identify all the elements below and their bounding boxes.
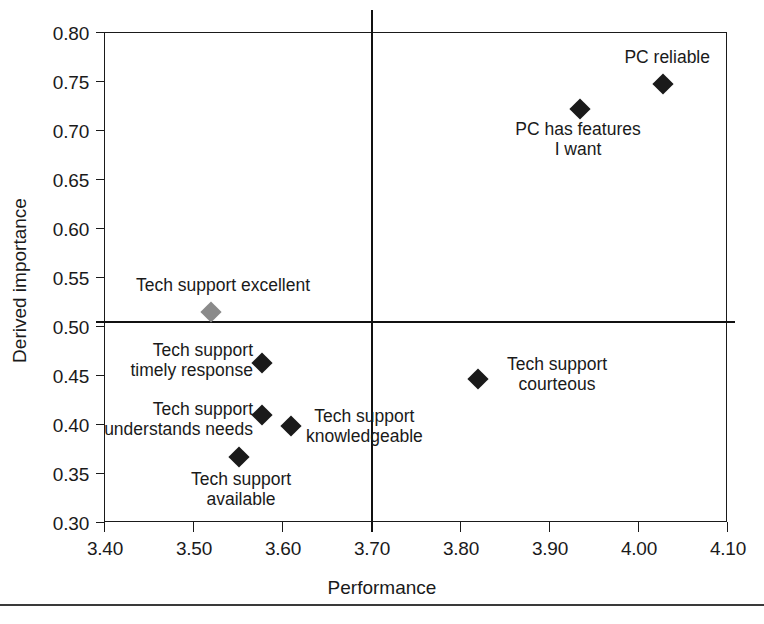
y-tick-label: 0.30 — [53, 514, 89, 533]
y-tick-0.35: 0.35 — [96, 473, 105, 474]
x-tick-label: 3.50 — [176, 539, 212, 558]
point-label-line: available — [206, 489, 275, 509]
point-label-line: PC has features — [515, 119, 640, 139]
x-tick-3.50: 3.50 — [193, 522, 194, 532]
y-tick-0.80: 0.80 — [96, 32, 105, 33]
y-tick-0.55: 0.55 — [96, 277, 105, 278]
y-tick-label: 0.70 — [53, 122, 89, 141]
x-tick-label: 4.10 — [710, 539, 746, 558]
point-label-line: understands needs — [104, 419, 253, 439]
y-tick-label: 0.75 — [53, 73, 89, 92]
point-label-tech-support-excellent: Tech support excellent — [136, 276, 310, 296]
point-label-line: Tech support — [153, 399, 253, 419]
y-tick-label: 0.50 — [53, 318, 89, 337]
y-tick-label: 0.60 — [53, 220, 89, 239]
x-tick-label: 3.60 — [265, 539, 301, 558]
x-tick-3.60: 3.60 — [282, 522, 283, 532]
x-tick-4.00: 4.00 — [638, 522, 639, 532]
point-label-tech-support-understands-needs: Tech supportunderstands needs — [104, 400, 253, 439]
reference-line-vertical — [371, 10, 373, 532]
y-tick-label: 0.65 — [53, 171, 89, 190]
scatter-chart: 0.30 0.35 0.40 0.45 0.50 0.55 0.60 0.65 … — [0, 0, 764, 624]
point-label-line: knowledgeable — [306, 426, 423, 446]
x-tick-3.40: 3.40 — [104, 522, 105, 532]
y-tick-0.60: 0.60 — [96, 228, 105, 229]
point-label-line: Tech support — [153, 340, 253, 360]
x-tick-4.10: 4.10 — [727, 522, 728, 532]
y-tick-label: 0.45 — [53, 367, 89, 386]
x-tick-3.90: 3.90 — [549, 522, 550, 532]
x-tick-label: 3.70 — [354, 539, 390, 558]
x-tick-label: 3.80 — [443, 539, 479, 558]
point-label-line: Tech support — [507, 354, 607, 374]
point-label-tech-support-timely-response: Tech supporttimely response — [130, 341, 253, 380]
point-label-line: Tech support — [314, 406, 414, 426]
y-tick-0.75: 0.75 — [96, 81, 105, 82]
point-label-line: timely response — [130, 360, 253, 380]
point-label-line: Tech support — [191, 469, 291, 489]
point-label-tech-support-available: Tech supportavailable — [191, 470, 291, 509]
y-axis-title: Derived importance — [10, 141, 29, 421]
point-label-line: courteous — [519, 374, 596, 394]
x-tick-label: 3.90 — [532, 539, 568, 558]
point-label-tech-support-knowledgeable: Tech supportknowledgeable — [306, 407, 423, 446]
point-label-tech-support-courteous: Tech supportcourteous — [507, 355, 607, 394]
y-tick-0.45: 0.45 — [96, 375, 105, 376]
point-label-pc-reliable: PC reliable — [624, 48, 710, 68]
y-tick-0.70: 0.70 — [96, 130, 105, 131]
y-tick-label: 0.80 — [53, 24, 89, 43]
x-tick-3.80: 3.80 — [460, 522, 461, 532]
x-axis-title: Performance — [0, 578, 764, 597]
y-tick-label: 0.35 — [53, 465, 89, 484]
y-tick-label: 0.55 — [53, 269, 89, 288]
point-label-pc-has-features: PC has featuresI want — [515, 120, 640, 159]
x-tick-label: 4.00 — [621, 539, 657, 558]
point-label-line: I want — [555, 139, 602, 159]
y-tick-label: 0.40 — [53, 416, 89, 435]
reference-line-horizontal — [96, 321, 735, 323]
y-tick-0.50: 0.50 — [96, 326, 105, 327]
y-tick-0.65: 0.65 — [96, 179, 105, 180]
x-tick-label: 3.40 — [87, 539, 123, 558]
bottom-divider — [0, 604, 764, 606]
